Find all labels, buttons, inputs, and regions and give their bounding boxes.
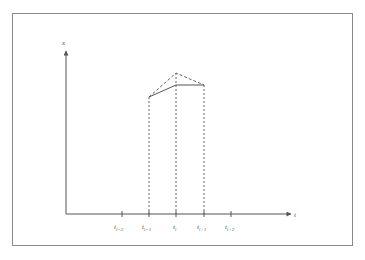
dashed-drop-lines <box>149 73 204 214</box>
tick-label-t-i-minus-1: ti−1 <box>142 223 151 232</box>
figure-frame <box>13 14 353 246</box>
tick-label-t-i-minus-2: ti−2 <box>114 223 124 232</box>
tick-label-t-i: ti <box>173 223 177 232</box>
diagram-figure: x t ti−2 ti−1 ti ti+1 ti+2 <box>0 0 365 260</box>
tick-label-t-i-plus-2: ti+2 <box>225 223 235 232</box>
y-axis-label: x <box>61 39 66 47</box>
solid-interpolation-line <box>149 85 204 97</box>
tick-label-t-i-plus-1: ti+1 <box>197 223 206 232</box>
x-axis-label: t <box>294 211 297 219</box>
tick-labels: ti−2 ti−1 ti ti+1 ti+2 <box>114 223 235 232</box>
